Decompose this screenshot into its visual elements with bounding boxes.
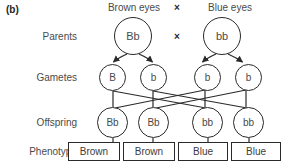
line-gamete4-offspring2 bbox=[156, 90, 246, 108]
offspring-circle-1: Bb bbox=[97, 107, 128, 138]
gamete-circle-2: b bbox=[140, 64, 167, 91]
phenotype-label-2: Brown bbox=[135, 147, 163, 157]
line-gamete2-offspring4b bbox=[153, 91, 247, 108]
gamete-allele-4: b bbox=[246, 73, 252, 83]
arrow-parent2-gamete3 bbox=[203, 54, 217, 62]
arrow-parent1-gamete2 bbox=[139, 54, 153, 62]
gamete-allele-2: b bbox=[151, 73, 157, 83]
offspring-genotype-4: bb bbox=[243, 118, 254, 128]
offspring-circle-2: Bb bbox=[138, 107, 169, 138]
offspring-circle-4: bb bbox=[233, 107, 264, 138]
parent-genotype-1: Bb bbox=[126, 31, 139, 42]
gamete-allele-3: b bbox=[205, 73, 211, 83]
offspring-circle-3: bb bbox=[192, 107, 223, 138]
gamete-circle-1: B bbox=[99, 64, 126, 91]
row-label-parents: Parents bbox=[0, 31, 77, 42]
gamete-circle-3: b bbox=[194, 64, 221, 91]
parent-caption-right: Blue eyes bbox=[186, 2, 274, 13]
phenotype-box-4: Blue bbox=[231, 142, 281, 161]
phenotype-box-2: Brown bbox=[123, 142, 175, 161]
offspring-genotype-2: Bb bbox=[147, 118, 159, 128]
line-gamete3-offspring1 bbox=[115, 90, 205, 108]
cross-symbol-parents: × bbox=[170, 31, 184, 42]
cross-symbol-top: × bbox=[170, 2, 184, 13]
panel-label: (b) bbox=[6, 4, 19, 15]
row-label-phenotype: Phenotype bbox=[0, 146, 77, 157]
parent-genotype-2: bb bbox=[216, 31, 228, 42]
arrow-parent2-gamete4 bbox=[228, 54, 243, 62]
row-label-offspring: Offspring bbox=[0, 117, 77, 128]
offspring-genotype-1: Bb bbox=[106, 118, 118, 128]
gamete-circle-4: b bbox=[235, 64, 262, 91]
gamete-allele-1: B bbox=[109, 73, 116, 83]
phenotype-box-3: Blue bbox=[178, 142, 228, 161]
offspring-genotype-3: bb bbox=[202, 118, 213, 128]
line-gamete1-offspring4 bbox=[113, 91, 206, 108]
parent-circle-1: Bb bbox=[114, 17, 152, 55]
parent-caption-left: Brown eyes bbox=[90, 2, 178, 13]
punnett-cross-diagram: (b) Brown eyes × Blue eyes Parents Gamet… bbox=[0, 0, 288, 165]
parent-circle-2: bb bbox=[203, 17, 241, 55]
phenotype-label-4: Blue bbox=[246, 147, 266, 157]
phenotype-label-1: Brown bbox=[80, 147, 108, 157]
row-label-gametes: Gametes bbox=[0, 72, 77, 83]
phenotype-box-1: Brown bbox=[68, 142, 120, 161]
arrow-parent1-gamete1 bbox=[114, 54, 128, 62]
phenotype-label-3: Blue bbox=[193, 147, 213, 157]
